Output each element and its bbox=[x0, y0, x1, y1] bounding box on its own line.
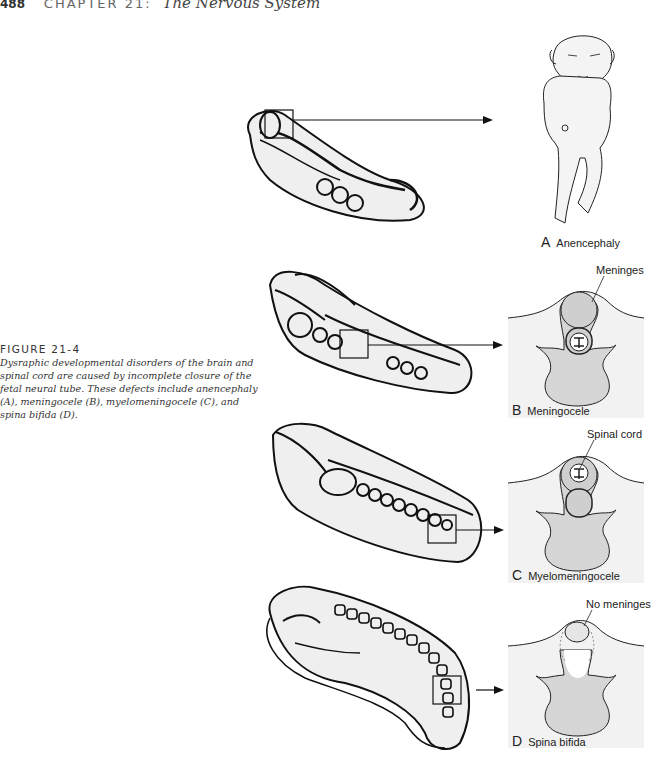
no-meninges-leader-line bbox=[582, 610, 596, 630]
embryo-illustration-d bbox=[265, 583, 495, 753]
panel-letter: C bbox=[512, 567, 522, 583]
figure-label: FIGURE 21-4 bbox=[0, 343, 262, 355]
cross-section-c bbox=[508, 455, 644, 583]
arrow-a bbox=[293, 115, 493, 125]
figure-caption: FIGURE 21-4 Dysraphic developmental diso… bbox=[0, 343, 262, 421]
anencephaly-infant-illustration bbox=[530, 28, 650, 228]
arrow-b bbox=[368, 340, 503, 350]
panel-letter: B bbox=[512, 402, 521, 418]
chapter-label: CHAPTER 21: bbox=[44, 0, 152, 11]
no-meninges-annotation: No meninges bbox=[586, 598, 651, 610]
figure-caption-text: Dysraphic developmental disorders of the… bbox=[0, 356, 262, 421]
arrow-d bbox=[476, 685, 504, 695]
panel-a-label: AAnencephaly bbox=[541, 234, 620, 250]
cross-section-b bbox=[508, 290, 644, 418]
panel-name: Meningocele bbox=[527, 405, 589, 417]
meninges-annotation: Meninges bbox=[596, 264, 644, 276]
page-number: 488 bbox=[0, 0, 25, 11]
panel-c-label: CMyelomeningocele bbox=[512, 567, 620, 583]
panel-b-label: BMeningocele bbox=[512, 402, 590, 418]
arrow-c bbox=[456, 525, 504, 535]
spinal-cord-annotation: Spinal cord bbox=[587, 428, 642, 440]
panel-name: Anencephaly bbox=[556, 237, 620, 249]
panel-letter: D bbox=[512, 733, 522, 749]
meninges-leader-line bbox=[590, 276, 610, 304]
spinal-cord-leader-line bbox=[578, 440, 598, 470]
panel-name: Spina bifida bbox=[528, 736, 586, 748]
panel-name: Myelomeningocele bbox=[528, 570, 620, 582]
cross-section-d bbox=[508, 620, 644, 748]
panel-letter: A bbox=[541, 234, 550, 250]
embryo-illustration-b bbox=[265, 265, 485, 405]
chapter-title: The Nervous System bbox=[162, 0, 320, 12]
embryo-illustration-c bbox=[268, 420, 493, 570]
panel-d-label: DSpina bifida bbox=[512, 733, 586, 749]
running-header: 488 CHAPTER 21: The Nervous System bbox=[0, 0, 320, 12]
